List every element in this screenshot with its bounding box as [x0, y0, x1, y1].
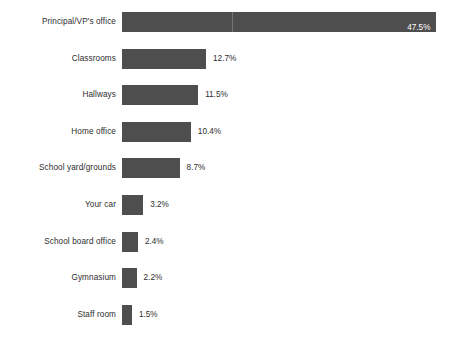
bar-value-label: 47.5% — [407, 18, 430, 38]
bar-value-label: 3.2% — [150, 195, 169, 215]
category-label: Home office — [0, 116, 116, 148]
bar-row: Home office10.4% — [0, 116, 458, 148]
bar-value-label: 11.5% — [205, 85, 228, 105]
bar[interactable] — [122, 122, 191, 142]
bar-track: 1.5% — [122, 299, 132, 331]
bar-track: 12.7% — [122, 43, 206, 75]
bar-track: 10.4% — [122, 116, 191, 148]
bar[interactable] — [122, 195, 143, 215]
bar-row: Principal/VP's office47.5% — [0, 6, 458, 38]
bar-track: 2.2% — [122, 262, 137, 294]
category-label: Classrooms — [0, 43, 116, 75]
category-label: Gymnasium — [0, 262, 116, 294]
bar-value-label: 1.5% — [139, 305, 158, 325]
category-label: Hallways — [0, 79, 116, 111]
bar-track: 2.4% — [122, 226, 138, 258]
bar-row: Your car3.2% — [0, 189, 458, 221]
category-label: Principal/VP's office — [0, 6, 116, 38]
bar-row: School board office2.4% — [0, 226, 458, 258]
bar-row: School yard/grounds8.7% — [0, 152, 458, 184]
bar-row: Hallways11.5% — [0, 79, 458, 111]
bar-track: 8.7% — [122, 152, 180, 184]
bar-row: Gymnasium2.2% — [0, 262, 458, 294]
category-label: School board office — [0, 226, 116, 258]
bar-chart: Principal/VP's office47.5%Classrooms12.7… — [0, 0, 458, 344]
category-label: School yard/grounds — [0, 152, 116, 184]
bar[interactable] — [122, 232, 138, 252]
bar-value-label: 10.4% — [198, 122, 221, 142]
bar[interactable] — [122, 49, 206, 69]
bar-value-label: 12.7% — [213, 49, 236, 69]
bar[interactable] — [122, 158, 180, 178]
bar[interactable] — [122, 85, 198, 105]
category-label: Your car — [0, 189, 116, 221]
plot-area: Principal/VP's office47.5%Classrooms12.7… — [0, 0, 458, 344]
bar[interactable]: 47.5% — [122, 12, 436, 32]
bar-row: Staff room1.5% — [0, 299, 458, 331]
bar[interactable] — [122, 305, 132, 325]
bar-row: Classrooms12.7% — [0, 43, 458, 75]
bar-value-label: 8.7% — [187, 158, 206, 178]
bar-track: 11.5% — [122, 79, 198, 111]
bar[interactable] — [122, 268, 137, 288]
category-label: Staff room — [0, 299, 116, 331]
bar-value-label: 2.4% — [145, 232, 164, 252]
bar-track: 47.5% — [122, 6, 436, 38]
bar-track: 3.2% — [122, 189, 143, 221]
bar-value-label: 2.2% — [144, 268, 163, 288]
